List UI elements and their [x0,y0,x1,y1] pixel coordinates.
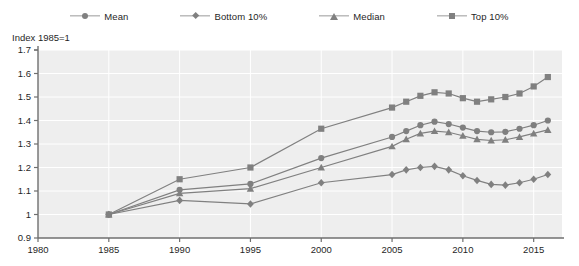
data-point-square [502,94,508,100]
data-point-square [177,176,183,182]
data-point-circle [403,128,409,134]
y-axis-tick-label: 1.3 [18,138,31,149]
data-point-square [106,211,112,217]
data-point-square [474,99,480,105]
x-axis-tick-label: 2015 [523,244,544,255]
y-axis-tick-label: 1.6 [18,68,31,79]
data-point-circle [446,121,452,127]
data-point-square [531,83,537,89]
data-point-square [545,74,551,80]
data-point-square [403,99,409,105]
plot-area: 0.911.11.21.31.41.51.61.7198019851990199… [0,0,579,266]
x-axis-tick-label: 2000 [311,244,332,255]
y-axis-tick-label: 1 [26,209,31,220]
data-point-square [318,126,324,132]
y-axis-tick-label: 0.9 [18,232,31,243]
y-axis-tick-label: 1.2 [18,162,31,173]
y-axis-tick-label: 1.1 [18,185,31,196]
data-point-circle [516,126,522,132]
legend-marker-triangle-icon [330,13,338,20]
data-point-circle [545,117,551,123]
y-axis-tick-label: 1.5 [18,91,31,102]
data-point-square [446,90,452,96]
x-axis-tick-label: 1995 [240,244,261,255]
x-axis-tick-label: 2005 [381,244,402,255]
data-point-circle [488,129,494,135]
chart-svg: 0.911.11.21.31.41.51.61.7198019851990199… [0,0,579,266]
data-point-circle [318,155,324,161]
x-axis-tick-label: 2010 [452,244,473,255]
data-point-circle [502,129,508,135]
chart-container: MeanBottom 10%MedianTop 10% Index 1985=1… [0,0,579,266]
legend-marker-square-icon [449,13,455,19]
data-point-circle [474,128,480,134]
data-point-square [417,93,423,99]
x-axis-tick-label: 1980 [27,244,48,255]
data-point-circle [417,122,423,128]
data-point-square [247,164,253,170]
data-point-circle [531,122,537,128]
x-axis-tick-label: 1985 [98,244,119,255]
data-point-square [389,104,395,110]
y-axis-tick-label: 1.7 [18,44,31,55]
data-point-circle [431,119,437,125]
x-axis-tick-label: 1990 [169,244,190,255]
y-axis-tick-label: 1.4 [18,115,31,126]
data-point-circle [389,134,395,140]
data-point-square [431,89,437,95]
data-point-circle [460,124,466,130]
data-point-square [488,96,494,102]
data-point-square [460,95,466,101]
data-point-square [516,90,522,96]
